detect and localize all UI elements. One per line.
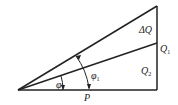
phi1-arrowhead-bottom [87, 84, 91, 90]
phi2-label: φ2 [56, 80, 65, 91]
q2-label: Q2 [141, 66, 151, 77]
p-text: P [84, 92, 90, 103]
phi2-subscript: 2 [62, 85, 65, 91]
p-label: P [84, 93, 90, 103]
q1-label: Q1 [160, 44, 170, 55]
hypotenuse-phi1 [18, 6, 157, 90]
q1-subscript: 1 [167, 49, 170, 55]
phi1-arc [76, 56, 89, 88]
hypotenuse-phi2 [18, 43, 157, 90]
power-triangle-figure [0, 0, 178, 105]
q2-subscript: 2 [148, 71, 151, 77]
phi1-label: φ1 [91, 71, 100, 82]
delta-q-text: ΔQ [139, 24, 152, 35]
delta-q-label: ΔQ [139, 25, 152, 35]
phi1-subscript: 1 [97, 76, 100, 82]
